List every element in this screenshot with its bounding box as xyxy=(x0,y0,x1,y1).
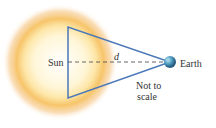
sun-earth-diagram: Sun d Earth Not to scale xyxy=(0,0,216,128)
note-line1: Not to xyxy=(136,80,161,91)
earth-label: Earth xyxy=(180,58,202,69)
sun-label: Sun xyxy=(48,57,64,68)
earth-icon xyxy=(164,56,176,68)
distance-label: d xyxy=(114,51,119,62)
note-line2: scale xyxy=(137,91,157,102)
